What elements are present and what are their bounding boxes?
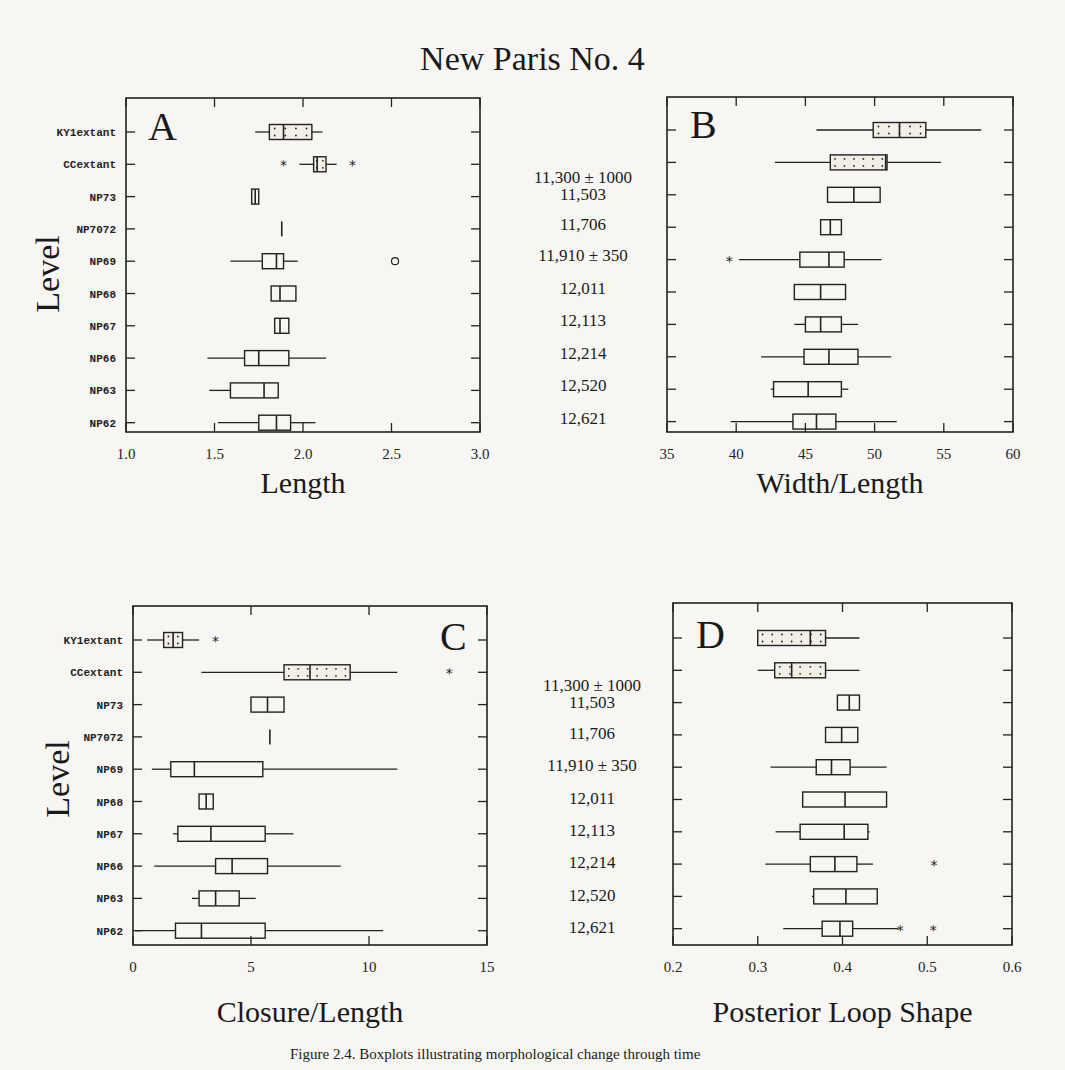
- boxplot-svg: 0.20.30.40.50.6D***: [0, 0, 1065, 1000]
- box-NP66: *: [673, 857, 1012, 874]
- box-NP67: [673, 824, 1012, 839]
- outlier-asterisk: *: [930, 922, 937, 938]
- x-tick-label: 0.2: [664, 959, 683, 975]
- box-NP73: [673, 695, 1012, 710]
- box-NP68: [673, 792, 1012, 807]
- box-NP7072: [673, 727, 1012, 742]
- panel-letter: D: [696, 612, 725, 657]
- box-CCextant: [673, 663, 1012, 678]
- panel-d-posterior-loop-shape: 0.20.30.40.50.6D***: [0, 0, 1065, 1000]
- x-axis-label-c: Closure/Length: [133, 995, 487, 1029]
- box-NP63: [673, 889, 1012, 904]
- box-NP62: **: [673, 921, 1012, 938]
- outlier-asterisk: *: [897, 922, 904, 938]
- x-tick-label: 0.4: [833, 959, 852, 975]
- x-tick-label: 0.3: [748, 959, 767, 975]
- x-tick-label: 0.5: [918, 959, 937, 975]
- x-axis-label-d: Posterior Loop Shape: [673, 995, 1012, 1029]
- box-NP69: [673, 760, 1012, 775]
- x-tick-label: 0.6: [1003, 959, 1022, 975]
- outlier-asterisk: *: [931, 857, 938, 873]
- figure-caption: Figure 2.4. Boxplots illustrating morpho…: [290, 1046, 700, 1063]
